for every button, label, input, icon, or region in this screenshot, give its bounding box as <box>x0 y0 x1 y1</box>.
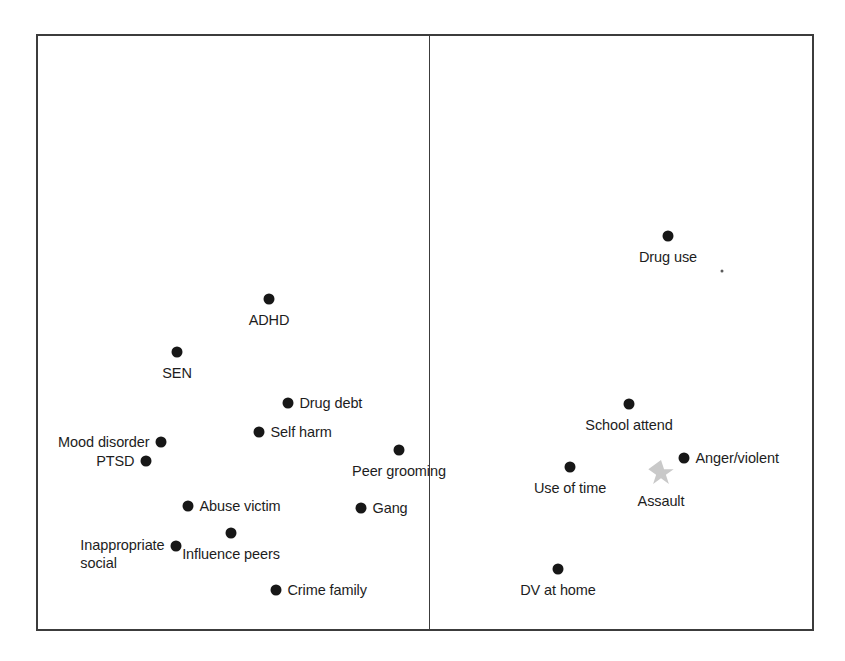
right-panel-frame <box>429 34 814 631</box>
dot-marker-icon <box>663 231 674 242</box>
dot-marker-icon <box>226 528 237 539</box>
dot-marker-icon <box>356 503 367 514</box>
point-label: School attend <box>585 417 672 434</box>
point-label: Gang <box>373 500 408 517</box>
point-label: Assault <box>638 493 685 510</box>
point-label: Anger/violent <box>696 450 779 467</box>
dot-marker-icon <box>156 437 167 448</box>
dot-marker-icon <box>271 585 282 596</box>
dot-marker-icon <box>565 462 576 473</box>
point-label: Crime family <box>288 582 367 599</box>
dot-marker-icon <box>553 564 564 575</box>
dot-marker-icon <box>624 399 635 410</box>
dot-marker-icon <box>171 541 182 552</box>
dot-marker-icon <box>679 453 690 464</box>
point-label: Mood disorder <box>58 434 149 451</box>
dot-marker-icon <box>283 398 294 409</box>
dot-marker-icon <box>183 501 194 512</box>
point-label: PTSD <box>96 453 134 470</box>
point-label: Use of time <box>534 480 606 497</box>
dot-marker-icon <box>141 456 152 467</box>
point-label: Peer grooming <box>352 463 446 480</box>
point-label: ADHD <box>249 312 290 329</box>
point-label: Inappropriate social <box>80 537 164 572</box>
point-label: Self harm <box>271 424 332 441</box>
dot-marker-icon <box>172 347 183 358</box>
speck-marker-icon <box>721 270 724 273</box>
dot-marker-icon <box>254 427 265 438</box>
point-label: SEN <box>162 365 192 382</box>
dot-marker-icon <box>264 294 275 305</box>
dot-marker-icon <box>394 445 405 456</box>
point-label: Drug use <box>639 249 697 266</box>
point-label: Abuse victim <box>200 498 281 515</box>
point-label: Influence peers <box>182 546 280 563</box>
point-label: Drug debt <box>300 395 363 412</box>
scatter-figure: ADHDSENDrug debtSelf harmMood disorderPT… <box>0 0 845 661</box>
point-label: DV at home <box>520 582 596 599</box>
